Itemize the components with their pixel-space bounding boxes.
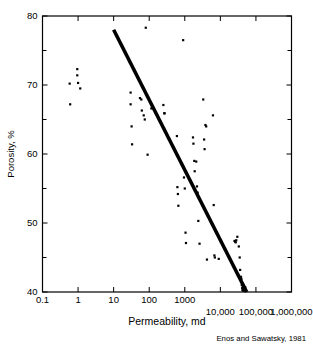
scatter-point [203, 148, 205, 150]
scatter-point [162, 104, 164, 106]
x-tick-label: 1000 [174, 294, 195, 305]
scatter-point [131, 125, 133, 127]
scatter-point [239, 256, 241, 258]
scatter-point [143, 114, 145, 116]
scatter-point [146, 154, 148, 156]
scatter-point [184, 232, 186, 234]
scatter-point [163, 112, 165, 114]
scatter-point [76, 68, 78, 70]
x-tick-label: 1,000,000 [270, 306, 312, 317]
scatter-point [177, 205, 179, 207]
scatter-point [235, 239, 237, 241]
scatter-point [235, 241, 237, 243]
chart-canvas: 0.1110100100010,000100,0001,000,000 4050… [0, 0, 313, 347]
scatter-point [185, 242, 187, 244]
scatter-point [212, 114, 214, 116]
scatter-point [203, 138, 205, 140]
scatter-point [183, 176, 185, 178]
scatter-point [140, 98, 142, 100]
scatter-point [131, 143, 133, 145]
scatter-point [195, 160, 197, 162]
scatter-point [130, 103, 132, 105]
y-axis-title: Porosity, % [5, 130, 16, 178]
scatter-point [197, 220, 199, 222]
scatter-point [214, 256, 216, 258]
scatter-point [177, 193, 179, 195]
scatter-point [193, 160, 195, 162]
scatter-point [194, 170, 196, 172]
scatter-point [176, 135, 178, 137]
y-tick-label: 40 [27, 286, 38, 297]
scatter-point [130, 91, 132, 93]
y-tick-label: 50 [27, 217, 38, 228]
scatter-point [76, 74, 78, 76]
scatter-point [192, 143, 194, 145]
scatter-point [239, 269, 241, 271]
scatter-point [236, 236, 238, 238]
scatter-point [184, 187, 186, 189]
x-tick-label: 1 [75, 294, 80, 305]
scatter-point [141, 109, 143, 111]
scatter-point [213, 204, 215, 206]
x-tick-label: 10 [108, 294, 119, 305]
x-tick-label: 10,000 [206, 306, 235, 317]
scatter-point [69, 83, 71, 85]
scatter-point [218, 258, 220, 260]
y-tick-label: 80 [27, 10, 38, 21]
scatter-point [69, 103, 71, 105]
x-tick-label: 0.1 [36, 294, 49, 305]
y-tick-label: 60 [27, 148, 38, 159]
scatter-point [145, 27, 147, 29]
scatter-chart-figure: 0.1110100100010,000100,0001,000,000 4050… [0, 0, 313, 347]
y-tick-label: 70 [27, 79, 38, 90]
scatter-point [182, 39, 184, 41]
x-tick-label: 100,000 [239, 306, 273, 317]
scatter-point [205, 125, 207, 127]
scatter-point [198, 243, 200, 245]
x-axis-title: Permeability, md [128, 315, 206, 327]
scatter-point [213, 254, 215, 256]
source-credit: Enos and Sawatsky, 1981 [216, 334, 306, 343]
scatter-point [196, 185, 198, 187]
x-tick-label: 100 [141, 294, 157, 305]
scatter-point [176, 186, 178, 188]
scatter-point [202, 98, 204, 100]
scatter-point [79, 87, 81, 89]
scatter-point [238, 245, 240, 247]
scatter-point [77, 82, 79, 84]
scatter-point [144, 118, 146, 120]
scatter-point [206, 258, 208, 260]
scatter-point [192, 136, 194, 138]
